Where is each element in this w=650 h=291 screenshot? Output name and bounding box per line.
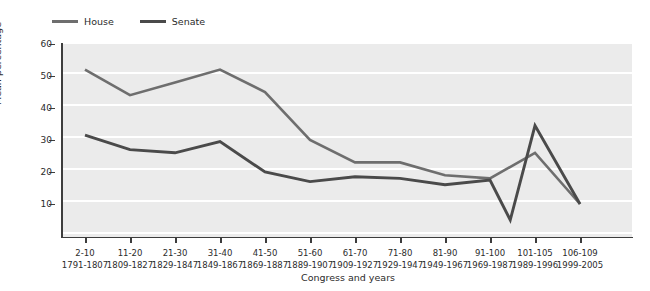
series-line-house [85,70,580,204]
series-line-senate [85,126,580,220]
chart-container: House Senate 60 50 40 30 20 10 [0,0,650,291]
series-layer [0,0,650,291]
